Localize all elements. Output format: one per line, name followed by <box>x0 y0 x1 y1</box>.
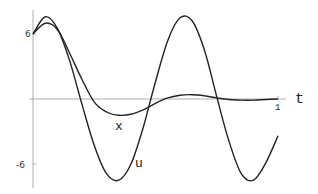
curve-x <box>33 23 278 115</box>
curve-u <box>33 16 278 181</box>
curve-label-u: u <box>135 156 143 171</box>
curve-label-x: x <box>115 119 123 134</box>
x-tick-label-1: 1 <box>275 103 280 113</box>
y-tick-label-neg6: -6 <box>16 160 25 170</box>
x-axis-label: t <box>295 91 304 108</box>
y-tick-label-6: 6 <box>25 29 31 39</box>
line-chart: 6 -6 1 t x u <box>0 0 318 194</box>
